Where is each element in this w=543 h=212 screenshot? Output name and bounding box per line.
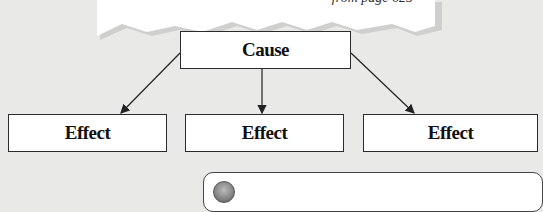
circle-bullet-icon: [213, 181, 235, 203]
arrow-left: [121, 53, 180, 113]
callout-source-text: —from page 625: [319, 0, 413, 6]
effect-label: Effect: [65, 122, 111, 144]
effect-box-1: Effect: [8, 114, 167, 152]
effect-box-3: Effect: [363, 114, 538, 152]
effect-label: Effect: [242, 122, 288, 144]
arrow-right: [351, 53, 414, 113]
cause-box: Cause: [180, 31, 351, 69]
cause-label: Cause: [242, 39, 289, 61]
effect-box-2: Effect: [185, 114, 344, 152]
note-box: [203, 172, 543, 212]
effect-label: Effect: [428, 122, 474, 144]
